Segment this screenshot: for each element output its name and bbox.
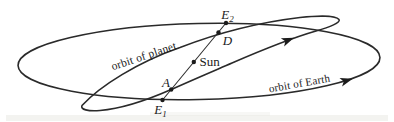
page-background: [0, 0, 394, 122]
label-e2-subscript: 2: [229, 14, 234, 24]
label-e1-subscript: 1: [162, 109, 167, 119]
label-e2-main: E: [220, 7, 229, 22]
label-point-a: A: [161, 75, 170, 90]
scan-artifact-smudge: [150, 112, 270, 116]
sun-dot: [192, 60, 196, 64]
orbit-diagram: E2 D Sun A E1 orbit of planet orbit of E…: [0, 0, 394, 122]
point-d-dot: [216, 30, 220, 34]
label-point-d: D: [222, 33, 233, 48]
label-e1-main: E: [153, 102, 162, 117]
label-sun: Sun: [200, 54, 221, 69]
